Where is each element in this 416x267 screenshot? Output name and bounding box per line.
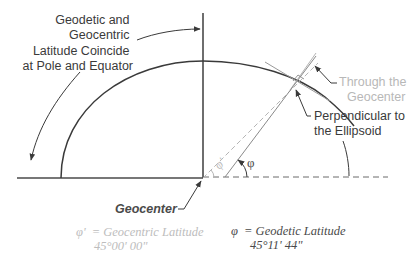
pole-leader-arrow bbox=[137, 29, 200, 40]
geocenter-label: Geocenter bbox=[115, 202, 178, 216]
phi-prime-label: φ' bbox=[212, 155, 229, 172]
through-leader-arrow bbox=[315, 66, 337, 83]
geocentric-angle-arc bbox=[211, 170, 214, 177]
geodetic-value: 45°11' 44" bbox=[250, 238, 303, 252]
equator-leader-arrow bbox=[31, 72, 80, 160]
phi-label: φ bbox=[247, 155, 255, 170]
ellipse-arc bbox=[61, 61, 354, 178]
geocenter-leader-arrow bbox=[178, 181, 201, 209]
geocentric-value: 45°00' 00" bbox=[94, 239, 148, 253]
geodetic-legend: φ = Geodetic Latitude bbox=[231, 224, 346, 238]
latitude-diagram: φ φ' Geodetic and Geocentric Latitude Co… bbox=[0, 0, 416, 267]
coincide-label: Geodetic and Geocentric Latitude Coincid… bbox=[23, 13, 134, 73]
through-geocenter-label: Through the Geocenter bbox=[339, 75, 410, 104]
perpendicular-label: Perpendicular to the Ellipsoid bbox=[314, 109, 409, 138]
normal-line bbox=[225, 56, 316, 177]
geocentric-legend: φ' = Geocentric Latitude bbox=[76, 225, 204, 239]
perpendicular-leader-arrow bbox=[296, 90, 311, 116]
geodetic-angle-arc bbox=[238, 160, 247, 177]
tangent-line bbox=[265, 62, 330, 101]
perpendicular-leader-to-dashed bbox=[343, 141, 349, 176]
